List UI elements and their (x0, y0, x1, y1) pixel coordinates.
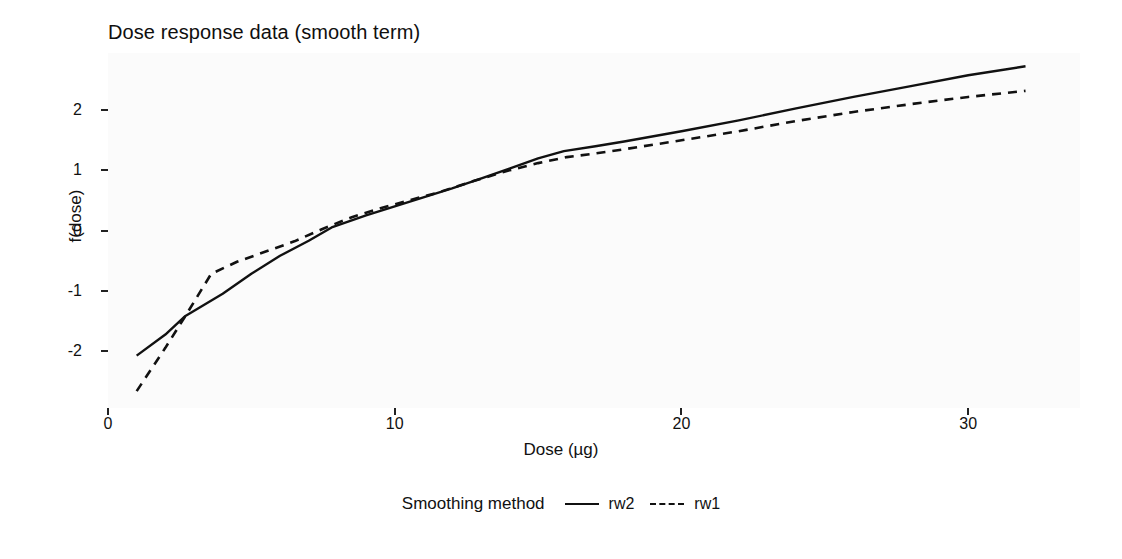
y-tick-mark (101, 169, 108, 171)
legend-entry-rw1[interactable]: rw1 (650, 495, 720, 513)
x-tick-mark (394, 408, 396, 415)
legend-key-solid-line-icon (565, 497, 599, 511)
x-tick-label: 30 (938, 415, 998, 433)
y-axis-label: f(dose) (66, 136, 86, 296)
y-tick-mark (101, 109, 108, 111)
x-tick-mark (967, 408, 969, 415)
x-tick-label: 20 (651, 415, 711, 433)
x-tick-mark (680, 408, 682, 415)
y-tick-mark (101, 230, 108, 232)
legend-label: rw1 (694, 495, 720, 513)
y-tick-mark (101, 350, 108, 352)
legend-entry-rw2[interactable]: rw2 (565, 495, 635, 513)
chart-figure: Dose response data (smooth term) -2-1012… (0, 0, 1122, 559)
legend-key-dashed-line-icon (650, 497, 684, 511)
legend: Smoothing method rw2rw1 (0, 494, 1122, 514)
x-tick-label: 0 (78, 415, 138, 433)
x-tick-mark (107, 408, 109, 415)
page-title: Dose response data (smooth term) (108, 20, 420, 44)
x-axis-label: Dose (µg) (0, 440, 1122, 460)
plot-panel (108, 53, 1080, 408)
x-tick-label: 10 (365, 415, 425, 433)
y-tick-label: -2 (42, 342, 82, 360)
y-tick-mark (101, 290, 108, 292)
legend-label: rw2 (609, 495, 635, 513)
panel-background (108, 53, 1080, 408)
legend-title: Smoothing method (402, 494, 545, 514)
plot-area (108, 53, 1080, 408)
y-tick-label: 2 (42, 101, 82, 119)
